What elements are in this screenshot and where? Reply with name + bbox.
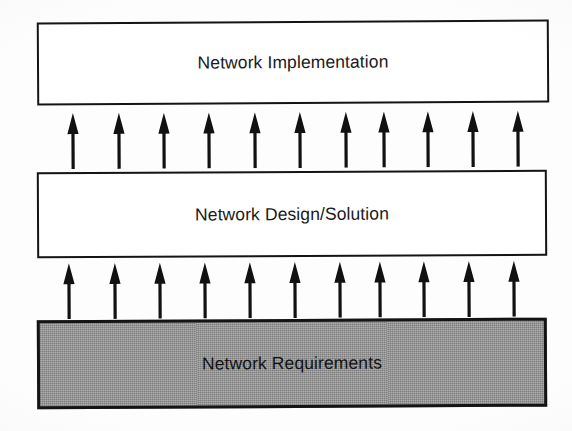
up-arrow-icon [371,261,389,317]
up-arrow-icon [241,262,259,318]
up-arrow-icon [196,262,214,318]
layer-box-network-design-solution: Network Design/Solution [37,170,547,258]
up-arrow-icon [419,111,437,167]
up-arrow-icon [106,263,124,319]
up-arrow-icon [151,263,169,319]
up-arrow-icon [291,112,309,168]
up-arrow-icon [60,263,78,319]
arrow-row-requirements-to-design [0,257,572,320]
up-arrow-icon [505,261,523,317]
layer-box-network-requirements: Network Requirements [37,318,547,410]
up-arrow-icon [155,113,173,169]
layer-box-network-implementation: Network Implementation [37,19,549,105]
up-arrow-icon [64,113,82,169]
up-arrow-icon [464,111,482,167]
up-arrow-icon [110,113,128,169]
arrow-row-design-to-implementation [0,107,572,170]
layer-label-network-implementation: Network Implementation [197,51,388,73]
layer-label-network-design-solution: Network Design/Solution [195,203,389,225]
up-arrow-icon [460,261,478,317]
layer-label-network-requirements: Network Requirements [202,353,382,375]
up-arrow-icon [375,111,393,167]
up-arrow-icon [246,112,264,168]
up-arrow-icon [200,112,218,168]
diagram-canvas: Network Implementation Network Design/So… [0,0,572,431]
up-arrow-icon [331,262,349,318]
up-arrow-icon [337,112,355,168]
up-arrow-icon [286,262,304,318]
up-arrow-icon [415,261,433,317]
up-arrow-icon [509,111,527,167]
